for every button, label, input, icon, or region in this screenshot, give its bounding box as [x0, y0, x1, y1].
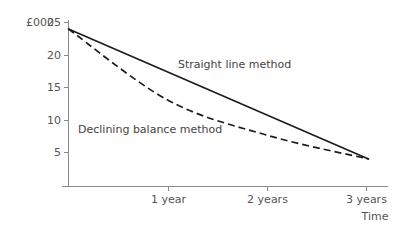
y-tick-label: 25 [47, 16, 61, 29]
x-tick-label: 1 year [151, 193, 187, 206]
y-tick-label: 20 [47, 49, 61, 62]
series-line-straight-line [69, 29, 369, 159]
series-label-straight-line: Straight line method [178, 58, 291, 71]
x-tick-label: 2 years [247, 193, 288, 206]
x-tick-label: 3 years [346, 193, 387, 206]
x-axis-ticks: 1 year 2 years 3 years [151, 187, 387, 207]
y-tick-label: 15 [47, 81, 61, 94]
x-axis-title: Time [361, 210, 389, 223]
chart-canvas: £000 25 20 15 10 5 1 year 2 years 3 year… [0, 0, 404, 227]
y-tick-label: 5 [54, 146, 61, 159]
y-tick-label: 10 [47, 114, 61, 127]
series-label-declining-balance: Declining balance method [78, 123, 222, 136]
y-axis-ticks: 25 20 15 10 5 [47, 16, 69, 159]
depreciation-chart: £000 25 20 15 10 5 1 year 2 years 3 year… [0, 0, 404, 227]
